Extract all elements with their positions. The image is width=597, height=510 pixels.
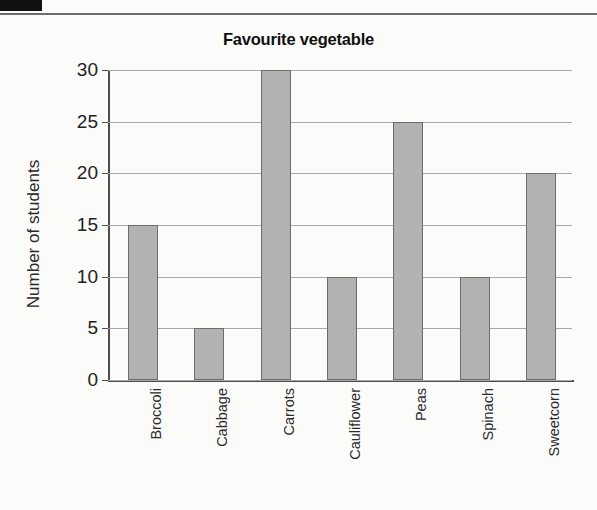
- bar: [194, 328, 224, 380]
- x-axis-tick-label: Broccoli: [149, 388, 164, 440]
- gridline: [108, 122, 572, 123]
- gridline: [108, 225, 572, 226]
- bar: [526, 173, 556, 380]
- y-axis-tick: [102, 122, 108, 123]
- bar: [460, 277, 490, 380]
- y-axis-tick: [102, 380, 108, 381]
- x-axis-tick-label: Sweetcorn: [547, 388, 562, 457]
- plot-area: [108, 70, 572, 380]
- chart-title: Favourite vegetable: [0, 30, 597, 49]
- bar: [128, 225, 158, 380]
- x-axis-tick-label: Carrots: [282, 388, 297, 436]
- y-axis-tick-label: 5: [52, 318, 98, 337]
- x-axis-tick-label: Peas: [414, 388, 429, 421]
- x-axis-tick-label: Spinach: [481, 388, 496, 440]
- bar-chart: Favourite vegetable Number of students 0…: [0, 0, 597, 510]
- y-axis-tick: [102, 225, 108, 226]
- y-axis-tick-label: 20: [52, 163, 98, 182]
- gridline: [108, 70, 572, 71]
- y-axis-tick: [102, 328, 108, 329]
- y-axis-tick: [102, 277, 108, 278]
- bar: [261, 70, 291, 380]
- y-axis-tick-label: 10: [52, 267, 98, 286]
- y-axis-tick-label: 30: [52, 60, 98, 79]
- y-axis-tick: [102, 70, 108, 71]
- bar: [393, 122, 423, 380]
- x-axis-tick-label: Cabbage: [215, 388, 230, 447]
- y-axis-tick-label: 25: [52, 112, 98, 131]
- y-axis-tick-label: 15: [52, 215, 98, 234]
- y-axis-tick: [102, 173, 108, 174]
- bar: [327, 277, 357, 380]
- x-axis-tick-label: Cauliflower: [348, 388, 363, 460]
- y-axis-title: Number of students: [24, 104, 44, 364]
- y-axis-tick-label: 0: [52, 370, 98, 389]
- gridline: [108, 173, 572, 174]
- gridline: [108, 380, 572, 381]
